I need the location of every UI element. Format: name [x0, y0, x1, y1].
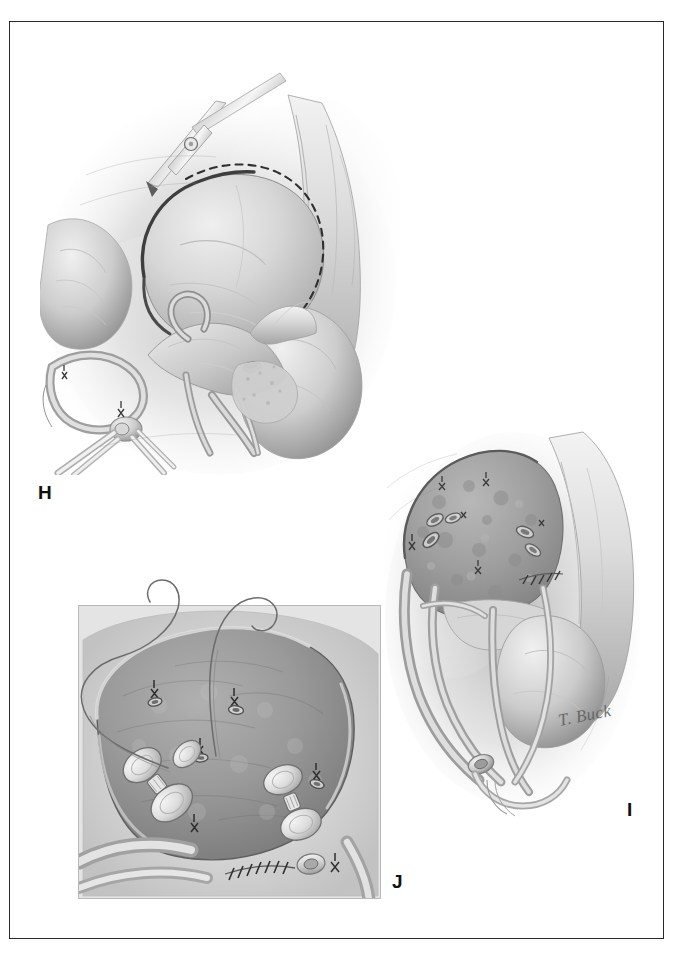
illustration-page: H [0, 0, 680, 954]
panel-h-artwork [40, 55, 400, 475]
panel-j-inset-frame [78, 605, 381, 899]
panel-label-i: I [627, 800, 633, 819]
panel-label-j: J [392, 872, 403, 891]
panel-j-artwork [79, 606, 381, 899]
panel-label-h: H [38, 483, 52, 502]
panel-i-artwork [383, 428, 648, 818]
panel-h [40, 55, 400, 475]
panel-i: T. Buck [383, 428, 648, 818]
